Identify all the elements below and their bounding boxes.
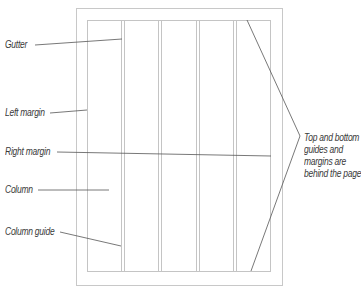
label-column-guide: Column guide [5, 226, 54, 238]
label-left-margin: Left margin [5, 107, 45, 119]
label-right-margin: Right margin [5, 146, 50, 158]
note-line-2: guides and [304, 144, 361, 156]
label-column: Column [5, 184, 33, 196]
label-top-bottom-note: Top and bottom guides and margins are be… [304, 132, 361, 180]
label-gutter: Gutter [5, 39, 27, 51]
note-line-4: behind the page [304, 168, 361, 180]
note-line-3: margins are [304, 156, 361, 168]
note-line-1: Top and bottom [304, 132, 361, 144]
page-outline [77, 9, 283, 286]
